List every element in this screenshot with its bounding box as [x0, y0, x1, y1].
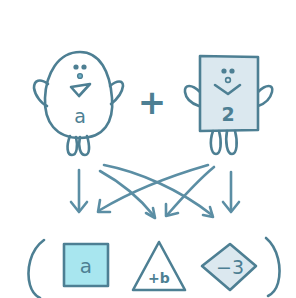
term-square-label: a: [80, 254, 92, 278]
rect-left-eye: [221, 68, 226, 73]
rect-left-leg: [211, 131, 221, 154]
arrow-a-to-3: [104, 165, 213, 217]
rect-right-leg: [226, 131, 236, 154]
rectangle-character: 2: [185, 56, 272, 154]
egg-character: a: [34, 52, 123, 155]
rect-left-arm: [185, 86, 200, 106]
term-triangle-label: +b: [148, 270, 170, 286]
egg-right-eye: [81, 64, 86, 69]
term-diamond-label: −3: [216, 256, 244, 278]
rect-right-eye: [229, 68, 234, 73]
rect-label: 2: [221, 103, 234, 125]
arrow-a-to-a: [71, 170, 87, 212]
close-paren: [266, 238, 280, 296]
distribution-arrows: [71, 165, 239, 218]
egg-left-leg: [68, 136, 77, 155]
bottom-expression: a +b −3: [29, 238, 280, 298]
egg-nose: [78, 74, 83, 79]
open-paren: [29, 240, 44, 298]
egg-label: a: [74, 105, 86, 127]
arrow-2-to-b: [166, 167, 214, 216]
egg-mouth: [71, 84, 90, 96]
rect-right-arm: [258, 86, 272, 106]
arrow-2-to-3: [223, 172, 239, 212]
egg-left-eye: [73, 64, 78, 69]
rect-nose: [226, 78, 231, 83]
plus-operator: +: [138, 82, 167, 122]
illustration: a + 2: [0, 0, 296, 298]
